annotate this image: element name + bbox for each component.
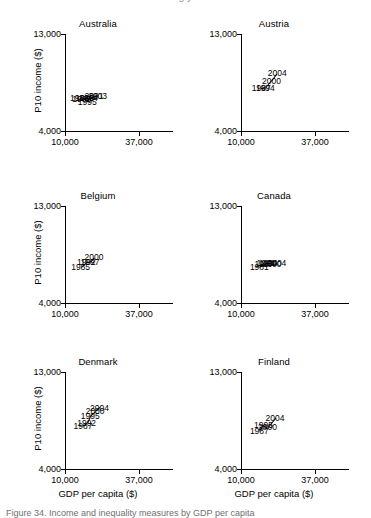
x-axis-tick [315,303,316,308]
data-point-label: 2003 [88,91,107,100]
data-point-label: 2004 [266,414,285,423]
x-axis-tick-label: 37,000 [301,137,329,147]
x-axis-tick-label: 37,000 [125,137,153,147]
panel-austria: Austria13,0004,00010,00037,0001987199420… [190,18,358,168]
x-axis-tick-label: 37,000 [125,309,153,319]
plot-area: 1987199520002004 [241,372,349,469]
plot-area: 19871992199520002004 [65,372,173,469]
x-axis-tick-label: 10,000 [51,309,79,319]
x-axis-tick-label: 10,000 [51,137,79,147]
y-axis-tick-label: 4,000 [38,126,61,136]
figure-canvas: g y Australia13,0004,00010,00037,000P10 … [0,0,371,518]
x-axis-tick-label: 37,000 [301,309,329,319]
x-axis-tick-label: 10,000 [227,137,255,147]
x-axis-tick [65,131,66,136]
panel-title: Australia [14,18,182,29]
y-axis-tick-label: 4,000 [38,298,61,308]
panel-belgium: Belgium13,0004,00010,00037,000P10 income… [14,190,182,340]
y-axis-title: P10 income ($) [32,374,43,464]
data-point-label: 2000 [85,253,104,262]
x-axis-line [65,131,173,132]
top-cut-label: g y [179,0,192,2]
plot-area: 1981198519891995199420012003 [65,34,173,131]
y-axis-tick-label: 4,000 [214,126,237,136]
panel-title: Denmark [14,356,182,367]
data-point-label: 2000 [258,423,277,432]
y-axis-tick-label: 4,000 [214,298,237,308]
x-axis-line [241,469,349,470]
x-axis-tick [139,131,140,136]
y-axis-title: P10 income ($) [32,36,43,126]
x-axis-tick-label: 10,000 [227,309,255,319]
x-axis-tick [241,131,242,136]
x-axis-tick [65,303,66,308]
x-axis-tick [139,469,140,474]
y-axis-tick-label: 13,000 [209,29,237,39]
x-axis-line [241,303,349,304]
x-axis-tick [315,131,316,136]
panel-title: Canada [190,190,358,201]
data-point-label: 2004 [90,403,109,412]
data-point-label: 2004 [267,259,286,268]
x-axis-line [241,131,349,132]
panel-title: Belgium [14,190,182,201]
x-axis-title: GDP per capita ($) [190,488,358,499]
y-axis-tick-label: 4,000 [38,464,61,474]
panel-title: Finland [190,356,358,367]
x-axis-line [65,303,173,304]
plot-area: 198119871991199420002004 [241,206,349,303]
y-axis-tick-label: 13,000 [209,367,237,377]
plot-area: 1985199219972000 [65,206,173,303]
x-axis-tick-label: 37,000 [125,475,153,485]
y-axis-tick-label: 4,000 [214,464,237,474]
x-axis-tick [241,303,242,308]
x-axis-tick [139,303,140,308]
x-axis-tick-label: 10,000 [227,475,255,485]
x-axis-title: GDP per capita ($) [14,488,182,499]
data-point-label: 2004 [268,69,287,78]
y-axis-tick-label: 13,000 [209,201,237,211]
y-axis-title: P10 income ($) [32,208,43,298]
x-axis-line [65,469,173,470]
plot-area: 1987199420002004 [241,34,349,131]
panel-title: Austria [190,18,358,29]
x-axis-tick [241,469,242,474]
panel-finland: Finland13,0004,00010,00037,000GDP per ca… [190,356,358,506]
figure-caption: Figure 34. Income and inequality measure… [6,508,366,518]
x-axis-tick-label: 37,000 [301,475,329,485]
figure-top-cut-text: g y [0,0,371,10]
x-axis-tick [65,469,66,474]
x-axis-tick-label: 10,000 [51,475,79,485]
panel-denmark: Denmark13,0004,00010,00037,000P10 income… [14,356,182,506]
panel-australia: Australia13,0004,00010,00037,000P10 inco… [14,18,182,168]
panel-canada: Canada13,0004,00010,00037,00019811987199… [190,190,358,340]
x-axis-tick [315,469,316,474]
